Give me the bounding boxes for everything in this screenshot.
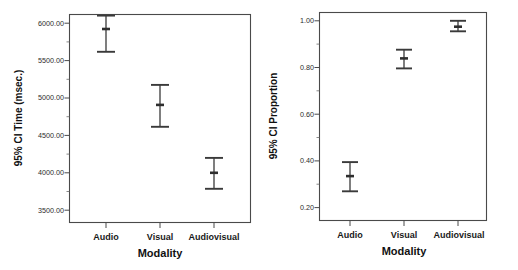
y-tick-label: 0.60 (300, 110, 314, 119)
y-tick-label: 4000.00 (38, 168, 64, 177)
x-category-label-audiovisual: Audiovisual (433, 230, 484, 240)
x-category-label-visual: Visual (391, 230, 417, 240)
chart-panel-time: 95% CI Time (msec.) 6000.00 5500.00 5000… (0, 0, 259, 270)
x-axis-ticks (350, 221, 458, 227)
x-axis-title: Modality (138, 247, 183, 259)
x-category-label-audiovisual: Audiovisual (188, 232, 239, 242)
x-axis-title: Modality (382, 245, 427, 257)
error-bar-audiovisual (450, 21, 466, 32)
error-bar-visual (151, 85, 169, 127)
x-axis-ticks (106, 223, 214, 229)
y-tick-label: 6000.00 (38, 19, 64, 28)
chart-svg-proportion: 95% CI Proportion 1.00 0.80 0.60 0.40 0.… (259, 0, 518, 270)
y-tick-label: 0.40 (300, 156, 314, 165)
y-tick-label: 0.20 (300, 203, 314, 212)
y-axis-title: 95% CI Time (msec.) (13, 70, 24, 167)
y-tick-label: 4500.00 (38, 131, 64, 140)
y-tick-label: 1.00 (300, 16, 314, 25)
y-axis-title: 95% CI Proportion (268, 73, 279, 160)
y-tick-label: 3500.00 (38, 206, 64, 215)
error-bar-audiovisual (205, 158, 223, 189)
x-category-label-audio: Audio (337, 230, 363, 240)
error-bar-audio (97, 16, 115, 52)
x-category-label-visual: Visual (147, 232, 173, 242)
y-tick-label: 5000.00 (38, 93, 64, 102)
y-tick-label: 0.80 (300, 63, 314, 72)
x-category-label-audio: Audio (93, 232, 119, 242)
error-bar-audio (342, 162, 358, 191)
error-bar-visual (396, 50, 412, 69)
error-bar-figure: 95% CI Time (msec.) 6000.00 5500.00 5000… (0, 0, 518, 270)
plot-frame (320, 13, 487, 221)
chart-panel-proportion: 95% CI Proportion 1.00 0.80 0.60 0.40 0.… (259, 0, 518, 270)
y-axis-ticks: 1.00 0.80 0.60 0.40 0.20 (300, 16, 320, 212)
chart-svg-time: 95% CI Time (msec.) 6000.00 5500.00 5000… (0, 0, 259, 270)
y-tick-label: 5500.00 (38, 56, 64, 65)
y-axis-ticks: 6000.00 5500.00 5000.00 4500.00 4000.00 … (38, 19, 69, 215)
